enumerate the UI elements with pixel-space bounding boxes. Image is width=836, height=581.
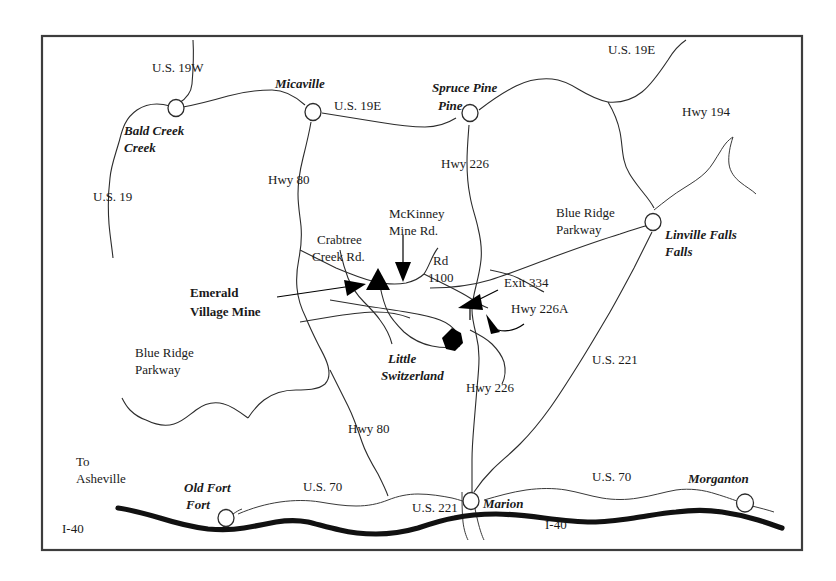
label-little-switzerland-line1: Little (387, 351, 416, 366)
label-hwy-80-lower: Hwy 80 (348, 421, 390, 436)
label-us-19w: U.S. 19W (152, 60, 204, 75)
label-mckinney-mine-rd-line1: McKinney (389, 206, 445, 221)
label-marion: Marion (482, 496, 523, 511)
label-little-switzerland-line2: Switzerland (381, 368, 444, 383)
label-to-asheville-line2: Asheville (76, 471, 126, 486)
label-blue-ridge-parkway-east-line1: Blue Ridge (556, 205, 615, 220)
town-dot-morganton[interactable] (737, 494, 754, 512)
label-us-70-west: U.S. 70 (303, 479, 342, 494)
label-spruce-pine: Spruce Pine (432, 80, 498, 95)
town-dot-linville-falls[interactable] (645, 214, 661, 231)
label-rd-1100-line2: 1100 (428, 270, 454, 285)
label-spruce-pine-line2: Pine (438, 98, 463, 113)
label-hwy-226-upper: Hwy 226 (441, 156, 490, 171)
label-old-fort: Old Fort (184, 480, 231, 495)
label-blue-ridge-parkway-east-line2: Parkway (556, 222, 602, 237)
label-hwy-80-upper: Hwy 80 (268, 172, 310, 187)
label-micaville: Micaville (274, 76, 325, 91)
label-old-fort-line2: Fort (185, 497, 210, 512)
label-hwy-226a: Hwy 226A (511, 301, 569, 316)
label-us-19e-mid: U.S. 19E (334, 98, 381, 113)
label-blue-ridge-parkway-west-line2: Parkway (135, 362, 181, 377)
label-us-19e-ne: U.S. 19E (608, 42, 655, 57)
label-emerald-village-mine-line1: Emerald (190, 285, 239, 300)
town-dot-old-fort[interactable] (218, 510, 234, 527)
town-dot-marion[interactable] (463, 493, 479, 510)
label-bald-creek-line2: Creek (124, 140, 156, 155)
label-hwy-226-lower: Hwy 226 (466, 380, 515, 395)
label-hwy-194: Hwy 194 (682, 104, 731, 119)
map-container: Bald Creek Micaville Spruce Pine Linvill… (0, 0, 836, 581)
label-mckinney-mine-rd-line2: Mine Rd. (389, 223, 438, 238)
label-linville-falls-line2: Falls (664, 244, 692, 259)
label-us-221: U.S. 221 (592, 352, 638, 367)
label-us-221-marion: U.S. 221 (412, 500, 458, 515)
label-us-19: U.S. 19 (93, 189, 132, 204)
label-blue-ridge-parkway-west-line1: Blue Ridge (135, 345, 194, 360)
label-i-40-east: I-40 (545, 517, 567, 532)
town-dot-bald-creek[interactable] (168, 100, 184, 117)
road-map-graphic: Bald Creek Micaville Spruce Pine Linvill… (0, 0, 836, 581)
town-dot-micaville[interactable] (305, 104, 321, 121)
label-exit-334: Exit 334 (504, 275, 549, 290)
label-emerald-village-mine-line2: Village Mine (190, 304, 261, 319)
label-i-40-west: I-40 (62, 521, 84, 536)
label-crabtree-creek-rd-line2: Creek Rd. (312, 249, 365, 264)
label-morganton: Morganton (687, 471, 749, 486)
label-to-asheville-line1: To (76, 454, 90, 469)
label-linville-falls: Linville Falls (664, 227, 737, 242)
label-rd-1100-line1: Rd (433, 253, 449, 268)
label-us-70-east: U.S. 70 (592, 469, 631, 484)
label-crabtree-creek-rd-line1: Crabtree (317, 232, 362, 247)
town-dot-spruce-pine[interactable] (462, 105, 478, 122)
label-bald-creek: Bald Creek (123, 123, 185, 138)
